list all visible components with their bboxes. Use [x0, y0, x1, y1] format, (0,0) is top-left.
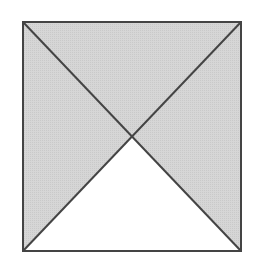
square-diagonals-diagram	[0, 0, 257, 269]
